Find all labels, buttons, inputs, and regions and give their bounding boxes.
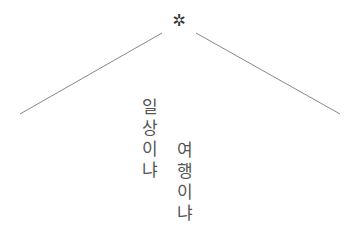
char: 냐: [142, 160, 158, 181]
char: 일: [142, 97, 158, 118]
char: 이: [142, 139, 158, 160]
char: 행: [177, 161, 193, 182]
char: 이: [177, 182, 193, 203]
char: 여: [177, 140, 193, 161]
asterisk-icon: ✲: [171, 11, 187, 31]
char: 냐: [177, 203, 193, 224]
vertical-text-travel: 여 행 이 냐: [175, 140, 195, 224]
vertical-text-daily-life: 일 상 이 냐: [140, 97, 160, 181]
roof-right-line: [196, 33, 340, 114]
char: 상: [142, 118, 158, 139]
